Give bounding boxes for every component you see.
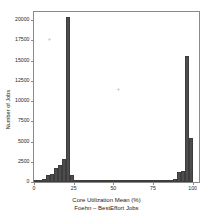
y-tick-mark <box>31 142 34 143</box>
y-tick-mark <box>31 61 34 62</box>
y-tick-mark <box>31 101 34 102</box>
histogram-bar <box>66 17 70 182</box>
y-tick-label: 15000 <box>15 58 29 63</box>
histogram-bar <box>189 138 193 182</box>
x-tick-label: 50 <box>110 186 116 191</box>
y-tick-label: 20000 <box>15 17 29 22</box>
y-tick-mark <box>31 121 34 122</box>
x-tick-label: 75 <box>150 186 156 191</box>
x-tick-label: 100 <box>188 186 197 191</box>
bar-series <box>34 12 199 182</box>
x-tick-label: 0 <box>33 186 36 191</box>
y-tick-label: 0 <box>27 179 30 184</box>
y-tick-label: 17500 <box>15 38 29 43</box>
y-tick-mark <box>31 162 34 163</box>
y-tick-label: 7500 <box>18 119 30 124</box>
histogram-figure: Number of Jobs 0250050007500100001250015… <box>0 0 213 219</box>
y-axis-title: Number of Jobs <box>2 0 14 219</box>
y-tick-label: 12500 <box>15 78 29 83</box>
plot-area: 02500500075001000012500150001750020000 0… <box>33 11 200 183</box>
y-tick-label: 10000 <box>15 98 29 103</box>
y-tick-mark <box>31 20 34 21</box>
y-tick-label: 2500 <box>18 159 30 164</box>
figure-caption: Core Utilization Mean (%) Foehn – BestEf… <box>0 196 213 212</box>
y-tick-label: 5000 <box>18 139 30 144</box>
y-tick-mark <box>31 40 34 41</box>
x-axis-title: Core Utilization Mean (%) <box>0 196 213 204</box>
x-tick-label: 25 <box>71 186 77 191</box>
y-tick-mark <box>31 81 34 82</box>
figure-subtitle: Foehn – BestEffort Jobs <box>0 204 213 212</box>
